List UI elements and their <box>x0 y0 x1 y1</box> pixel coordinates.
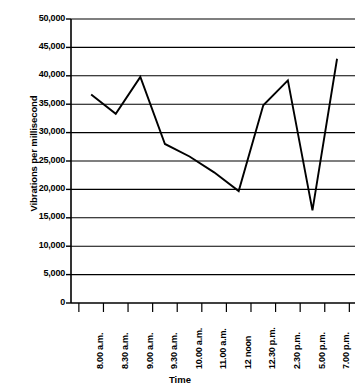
line-chart-figure: Vibrations per millisecond 05,00010,0001… <box>0 0 360 390</box>
plot-area <box>0 0 360 390</box>
data-series-line <box>91 59 337 211</box>
gridlines <box>71 19 355 275</box>
x-tick-marks <box>79 303 349 312</box>
x-axis-title: Time <box>0 374 360 385</box>
